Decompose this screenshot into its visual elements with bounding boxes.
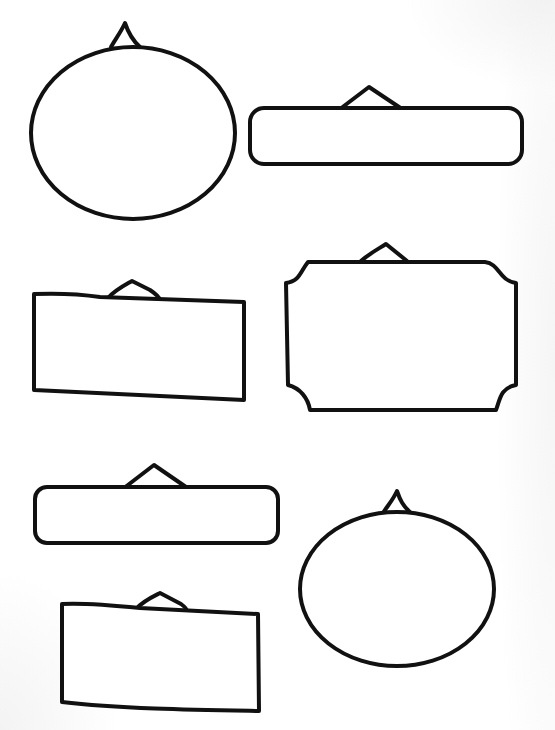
scalloped-frame [286, 262, 516, 410]
banner-frame [35, 487, 278, 543]
hanger-icon [361, 244, 407, 261]
sign-templates-canvas [0, 0, 555, 730]
banner-frame [250, 108, 522, 164]
rect-sign-bottom-left [62, 593, 259, 711]
hanger-icon [111, 23, 140, 47]
hanger-icon [340, 87, 402, 109]
rectangle-frame [62, 604, 259, 711]
oval-sign-top-left [31, 23, 235, 219]
rect-sign-middle-left [34, 281, 244, 400]
rectangle-frame [34, 294, 244, 400]
oval-sign-lower-right [300, 491, 494, 666]
oval-frame [31, 47, 235, 219]
banner-sign-lower-left [35, 465, 278, 543]
scalloped-sign-middle-right [286, 244, 516, 410]
oval-frame [300, 512, 494, 666]
hanger-icon [124, 465, 186, 488]
hanger-icon [383, 491, 411, 513]
banner-sign-top-right [250, 87, 522, 164]
